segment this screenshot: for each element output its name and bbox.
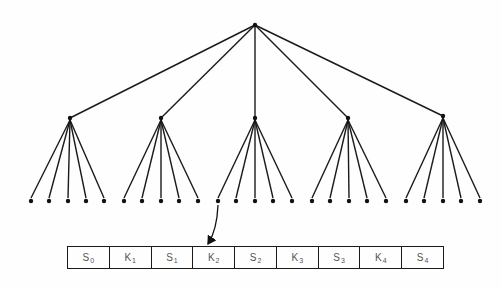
level1-node: [159, 116, 163, 120]
diagram-canvas: S0K1S1K2S2K3S3K4S4: [0, 0, 501, 289]
leaf-edge: [255, 120, 273, 198]
cell-subscript: 3: [299, 257, 303, 264]
cell-subscript: 3: [341, 257, 345, 264]
cell-letter: S: [250, 252, 257, 263]
leaf-edge: [236, 120, 255, 198]
leaf-node: [328, 199, 332, 203]
key-array-node: S0K1S1K2S2K3S3K4S4: [67, 246, 444, 269]
leaf-edge: [443, 118, 461, 198]
leaf-edge: [330, 120, 348, 198]
cell-subscript: 1: [132, 257, 136, 264]
leaf-node: [478, 199, 482, 203]
leaf-edge: [124, 120, 161, 198]
level1-node: [253, 116, 257, 120]
leaf-node: [140, 199, 144, 203]
key-cell: K4: [360, 247, 402, 268]
pointer-arrow-icon: [208, 205, 218, 244]
leaf-node: [122, 199, 126, 203]
leaf-edge: [348, 120, 386, 198]
cell-letter: S: [417, 252, 424, 263]
cell-subscript: 4: [425, 257, 429, 264]
subtree-pointer-cell: S0: [68, 247, 110, 268]
leaf-edge: [255, 120, 292, 198]
root-edge: [255, 25, 348, 118]
cell-letter: S: [333, 252, 340, 263]
key-cell: K1: [110, 247, 152, 268]
leaf-edge: [312, 120, 348, 198]
leaf-node: [347, 199, 351, 203]
leaf-edge: [70, 120, 86, 198]
leaf-node: [159, 199, 163, 203]
cell-subscript: 4: [383, 257, 387, 264]
leaf-edge: [424, 118, 443, 198]
leaf-node: [196, 199, 200, 203]
leaf-node: [84, 199, 88, 203]
cell-letter: S: [166, 252, 173, 263]
leaf-node: [216, 199, 220, 203]
cell-letter: K: [124, 252, 131, 263]
level1-node: [441, 114, 445, 118]
leaf-edge: [68, 120, 70, 198]
leaf-node: [310, 199, 314, 203]
root-node: [253, 23, 257, 27]
cell-letter: K: [375, 252, 382, 263]
leaf-node: [177, 199, 181, 203]
cell-subscript: 2: [216, 257, 220, 264]
leaf-node: [459, 199, 463, 203]
subtree-pointer-cell: S2: [235, 247, 277, 268]
cell-letter: K: [292, 252, 299, 263]
leaf-node: [66, 199, 70, 203]
key-cell: K3: [277, 247, 319, 268]
leaf-edge: [443, 118, 480, 198]
leaf-node: [234, 199, 238, 203]
cell-letter: K: [208, 252, 215, 263]
cell-letter: S: [83, 252, 90, 263]
leaf-node: [253, 199, 257, 203]
subtree-pointer-cell: S3: [319, 247, 361, 268]
leaf-edge: [348, 120, 367, 198]
leaf-node: [404, 199, 408, 203]
root-edge: [161, 25, 255, 118]
key-cell: K2: [193, 247, 235, 268]
level1-node: [68, 116, 72, 120]
leaf-node: [365, 199, 369, 203]
leaf-edge: [49, 120, 70, 198]
leaf-edge: [406, 118, 443, 198]
leaf-node: [384, 199, 388, 203]
leaf-edge: [161, 120, 198, 198]
leaf-edge: [161, 120, 179, 198]
cell-subscript: 2: [257, 257, 261, 264]
leaf-node: [29, 199, 33, 203]
leaf-node: [422, 199, 426, 203]
leaf-node: [441, 199, 445, 203]
root-edge: [255, 25, 443, 116]
root-edge: [70, 25, 255, 118]
leaf-edge: [142, 120, 161, 198]
cell-subscript: 1: [174, 257, 178, 264]
leaf-edge: [218, 120, 255, 198]
leaf-node: [47, 199, 51, 203]
leaf-node: [102, 199, 106, 203]
leaf-edge: [70, 120, 104, 198]
leaf-node: [271, 199, 275, 203]
subtree-pointer-cell: S4: [402, 247, 443, 268]
leaf-edge: [31, 120, 70, 198]
subtree-pointer-cell: S1: [152, 247, 194, 268]
cell-subscript: 0: [90, 257, 94, 264]
leaf-edge: [348, 120, 349, 198]
tree-edges: [31, 25, 480, 198]
level1-node: [346, 116, 350, 120]
leaf-node: [290, 199, 294, 203]
